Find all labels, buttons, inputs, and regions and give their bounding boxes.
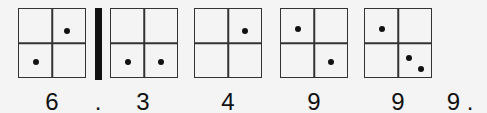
digit-box-5 bbox=[364, 8, 432, 78]
digit-label-1: 6 bbox=[45, 88, 58, 113]
digit-box-2 bbox=[110, 8, 178, 78]
decimal-separator-bar bbox=[95, 8, 102, 80]
bead-dot bbox=[158, 59, 164, 65]
bead-dot bbox=[125, 59, 131, 65]
trailing-digit-label: 9 . bbox=[447, 88, 474, 113]
grid-horizontal-line bbox=[365, 42, 431, 44]
digit-box-1 bbox=[18, 8, 86, 78]
grid-horizontal-line bbox=[195, 42, 261, 44]
bead-dot bbox=[406, 55, 412, 61]
grid-horizontal-line bbox=[19, 42, 85, 44]
digit-label-2: 3 bbox=[136, 88, 149, 113]
grid-horizontal-line bbox=[281, 42, 347, 44]
bead-dot bbox=[328, 59, 334, 65]
digit-box-4 bbox=[280, 8, 348, 78]
bead-dot bbox=[33, 59, 39, 65]
digit-label-5: 9 bbox=[391, 88, 404, 113]
digit-box-3 bbox=[194, 8, 262, 78]
bead-dot bbox=[242, 28, 248, 34]
bead-dot bbox=[418, 66, 424, 72]
decimal-point-label: . bbox=[95, 88, 102, 113]
bead-dot bbox=[64, 28, 70, 34]
grid-horizontal-line bbox=[111, 42, 177, 44]
digit-label-4: 9 bbox=[307, 88, 320, 113]
bead-dot bbox=[379, 26, 385, 32]
digit-label-3: 4 bbox=[221, 88, 234, 113]
bead-dot bbox=[295, 26, 301, 32]
